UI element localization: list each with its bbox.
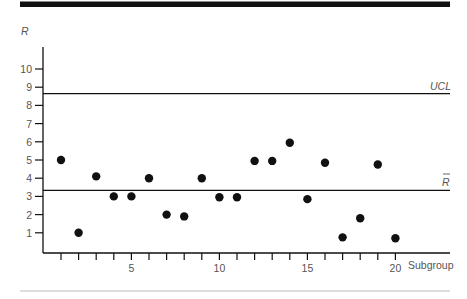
- top-rule: [20, 2, 450, 8]
- data-point: [321, 159, 329, 167]
- x-tick-label: 15: [302, 262, 314, 274]
- data-point: [250, 157, 258, 165]
- data-point: [57, 156, 65, 164]
- data-point: [74, 229, 82, 237]
- x-tick-label: 5: [128, 262, 134, 274]
- data-point: [92, 172, 100, 180]
- data-point: [233, 193, 241, 201]
- data-point: [286, 139, 294, 147]
- data-point: [198, 174, 206, 182]
- y-tick-label: 10: [20, 63, 32, 75]
- data-point: [268, 157, 276, 165]
- data-point: [215, 193, 223, 201]
- y-tick-label: 3: [26, 190, 32, 202]
- x-tick-label: 10: [214, 262, 226, 274]
- y-tick-label: 4: [26, 172, 32, 184]
- reference-lines: [43, 94, 450, 191]
- x-axis-title: Subgroup: [408, 259, 454, 271]
- r-control-chart: R 12345678910 5101520 Subgroup UCL R: [0, 0, 467, 299]
- data-point: [374, 160, 382, 168]
- data-point: [127, 192, 135, 200]
- rbar-label-text: R: [442, 176, 450, 188]
- y-tick-label: 1: [26, 227, 32, 239]
- y-tick-label: 9: [26, 81, 32, 93]
- y-axis-title: R: [21, 25, 29, 37]
- ucl-label: UCL: [430, 80, 451, 92]
- data-point: [145, 174, 153, 182]
- y-tick-label: 5: [26, 154, 32, 166]
- y-tick-label: 8: [26, 99, 32, 111]
- data-point: [338, 233, 346, 241]
- y-tick-label: 2: [26, 209, 32, 221]
- data-point: [391, 234, 399, 242]
- y-tick-label: 6: [26, 136, 32, 148]
- x-axis-ticks: 5101520: [61, 253, 401, 274]
- data-point: [356, 214, 364, 222]
- data-point: [162, 210, 170, 218]
- data-point: [180, 212, 188, 220]
- y-tick-label: 7: [26, 118, 32, 130]
- axes: [43, 47, 450, 253]
- y-axis-ticks: 12345678910: [20, 63, 43, 239]
- rbar-label: R: [442, 174, 450, 188]
- data-point: [303, 195, 311, 203]
- x-tick-label: 20: [390, 262, 402, 274]
- data-point: [110, 192, 118, 200]
